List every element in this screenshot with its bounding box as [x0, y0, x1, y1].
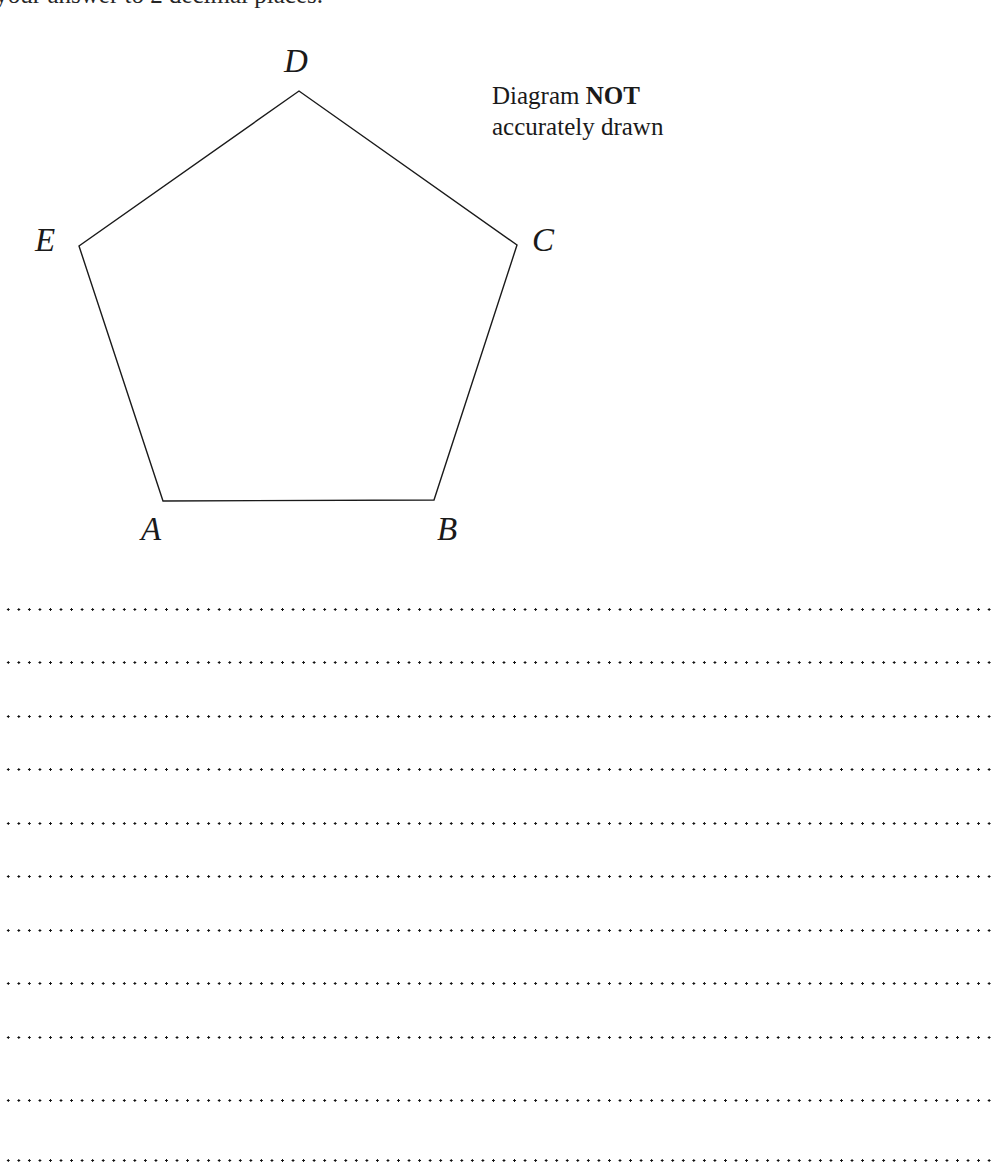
- answer-line[interactable]: [3, 1099, 992, 1102]
- answer-line[interactable]: [3, 822, 992, 825]
- answer-line[interactable]: [3, 982, 992, 985]
- answer-line[interactable]: [3, 1036, 992, 1039]
- answer-lines-area[interactable]: [0, 0, 994, 1173]
- exam-question-page: e your answer to 2 decimal places. Diagr…: [0, 0, 994, 1173]
- answer-line[interactable]: [3, 875, 992, 878]
- answer-line[interactable]: [3, 661, 992, 664]
- answer-line[interactable]: [3, 1159, 992, 1162]
- answer-line[interactable]: [3, 715, 992, 718]
- answer-line[interactable]: [3, 608, 992, 611]
- answer-line[interactable]: [3, 768, 992, 771]
- answer-line[interactable]: [3, 929, 992, 932]
